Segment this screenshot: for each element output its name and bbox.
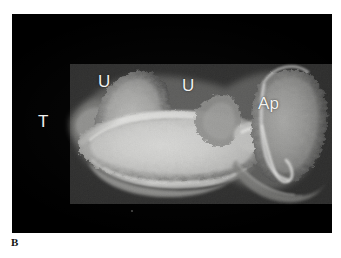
film-artifact-speck	[131, 210, 133, 212]
specimen-bone-radiograph	[12, 14, 332, 233]
panel-letter: B	[11, 237, 18, 248]
annotation-label-uncinate-1: U	[98, 73, 110, 90]
specimen-svg	[12, 14, 332, 233]
figure-plate: T U U Ap B	[0, 0, 341, 258]
radiograph-panel: T U U Ap	[12, 14, 332, 233]
annotation-label-uncinate-2: U	[182, 77, 194, 94]
annotation-label-tuber: T	[38, 113, 49, 130]
annotation-label-apophysis: Ap	[258, 95, 279, 112]
